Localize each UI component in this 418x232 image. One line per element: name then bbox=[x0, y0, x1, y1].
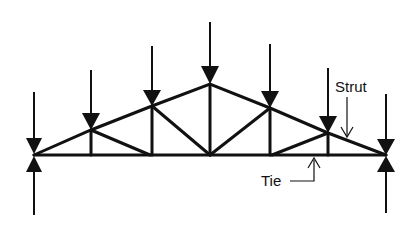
tie-label: Tie bbox=[261, 172, 281, 189]
diagonal-member bbox=[152, 106, 210, 155]
strut-label: Strut bbox=[335, 78, 368, 95]
diagonal-member bbox=[210, 108, 270, 155]
diagonal-member bbox=[272, 133, 328, 155]
reaction-arrowhead-icon bbox=[377, 156, 395, 172]
load-arrowhead-icon bbox=[201, 66, 219, 84]
reaction-arrowhead-icon bbox=[26, 156, 42, 172]
truss-diagram: Strut Tie bbox=[0, 0, 418, 232]
diagonal-member bbox=[91, 130, 150, 155]
